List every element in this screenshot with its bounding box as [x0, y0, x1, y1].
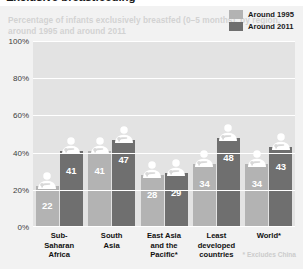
x-axis-category-line: Saharan [34, 241, 84, 251]
bar-wrapper: 43 [269, 41, 292, 227]
bar-group: 4147 [85, 41, 137, 227]
x-axis-category-line: countries [191, 250, 241, 260]
mother-and-baby-icon [37, 172, 58, 189]
x-axis-category-label: Leastdevelopedcountries [190, 231, 242, 260]
bar[interactable]: 28 [141, 175, 164, 227]
x-axis-category-label: SouthAsia [85, 231, 137, 260]
bar[interactable]: 48 [217, 138, 240, 227]
bar-wrapper: 48 [217, 41, 240, 227]
plot-area: 22414147282934483443 [33, 41, 295, 227]
gridline [33, 153, 295, 154]
x-axis-category-line: developed [191, 241, 241, 251]
x-axis-category-label: East Asiaand thePacific* [138, 231, 190, 260]
y-axis-tick: 0% [17, 223, 29, 232]
mother-and-baby-icon [89, 137, 110, 154]
x-axis-category-line: Least [191, 231, 241, 241]
figure-title: Exclusive breastfeeding [6, 0, 296, 5]
chart-legend: Around 1995Around 2011 [229, 10, 294, 31]
x-axis-category-line: and the [139, 241, 189, 251]
gridline [33, 115, 295, 116]
footnote: * Excludes China [242, 251, 296, 258]
mother-and-baby-icon [61, 137, 82, 154]
bar-wrapper: 34 [245, 41, 268, 227]
bar[interactable]: 22 [36, 186, 59, 227]
gridline [33, 78, 295, 79]
bar-wrapper: 29 [165, 41, 188, 227]
mother-and-baby-icon [166, 159, 187, 176]
bar-group: 2241 [33, 41, 85, 227]
bar-wrapper: 47 [112, 41, 135, 227]
bar-value-label: 41 [88, 165, 111, 176]
bar[interactable]: 34 [245, 164, 268, 227]
legend-label: Around 1995 [248, 10, 294, 19]
x-axis-category-line: Sub- [34, 231, 84, 241]
bar-value-label: 34 [193, 178, 216, 189]
bar-group: 3443 [243, 41, 295, 227]
x-axis-category-label: Sub-SaharanAfrica [33, 231, 85, 260]
legend-label: Around 2011 [248, 22, 294, 31]
bar-wrapper: 28 [141, 41, 164, 227]
bar-group: 2829 [138, 41, 190, 227]
exclusive-breastfeeding-figure: Exclusive breastfeeding Percentage of in… [0, 0, 303, 269]
bar-groups: 22414147282934483443 [33, 41, 295, 227]
bar-wrapper: 41 [88, 41, 111, 227]
bar[interactable]: 29 [165, 173, 188, 227]
bar-value-label: 43 [269, 161, 292, 172]
mother-and-baby-icon [113, 126, 134, 143]
bar-group: 3448 [190, 41, 242, 227]
bar-value-label: 34 [245, 178, 268, 189]
legend-item[interactable]: Around 1995 [229, 10, 294, 19]
bar-value-label: 41 [60, 165, 83, 176]
bar[interactable]: 41 [88, 151, 111, 227]
mother-and-baby-icon [270, 133, 291, 150]
bar[interactable]: 43 [269, 147, 292, 227]
y-axis-tick: 80% [13, 74, 29, 83]
bar-wrapper: 34 [193, 41, 216, 227]
x-axis-category-line: East Asia [139, 231, 189, 241]
y-axis-tick: 40% [13, 148, 29, 157]
bar-value-label: 29 [165, 187, 188, 198]
x-axis-category-line: South [86, 231, 136, 241]
gridline [33, 41, 295, 42]
y-axis: 100%80%60%40%20%0% [0, 37, 33, 232]
x-axis-category-line: World* [244, 231, 294, 241]
mother-and-baby-icon [142, 161, 163, 178]
legend-item[interactable]: Around 2011 [229, 22, 294, 31]
y-axis-tick: 100% [9, 37, 29, 46]
bar-wrapper: 22 [36, 41, 59, 227]
x-axis-category-line: Asia [86, 241, 136, 251]
gridline [33, 190, 295, 191]
bar-value-label: 22 [36, 200, 59, 211]
x-axis-category-line: Pacific* [139, 250, 189, 260]
bar-value-label: 47 [112, 154, 135, 165]
y-axis-tick: 60% [13, 111, 29, 120]
legend-swatch [229, 22, 243, 31]
legend-swatch [229, 10, 243, 19]
axis-baseline [33, 226, 295, 227]
bar-wrapper: 41 [60, 41, 83, 227]
x-axis-category-line: Africa [34, 250, 84, 260]
bar[interactable]: 34 [193, 164, 216, 227]
bar[interactable]: 41 [60, 151, 83, 227]
mother-and-baby-icon [218, 124, 239, 141]
y-axis-tick: 20% [13, 185, 29, 194]
